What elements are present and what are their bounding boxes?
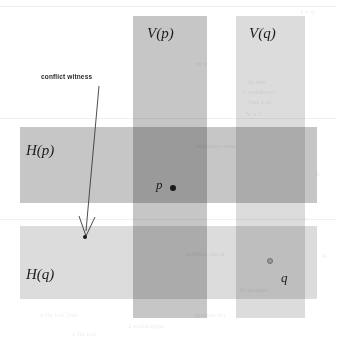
- point-label-p: p: [156, 178, 163, 191]
- point-label-q: q: [281, 271, 288, 284]
- leader-arrow: [0, 0, 337, 339]
- conflict-witness-label: conflict witness: [41, 74, 92, 81]
- conflict-witness-figure: 1 = qm osy bnso noitibnoobns 1 nlV o 1no…: [0, 0, 337, 339]
